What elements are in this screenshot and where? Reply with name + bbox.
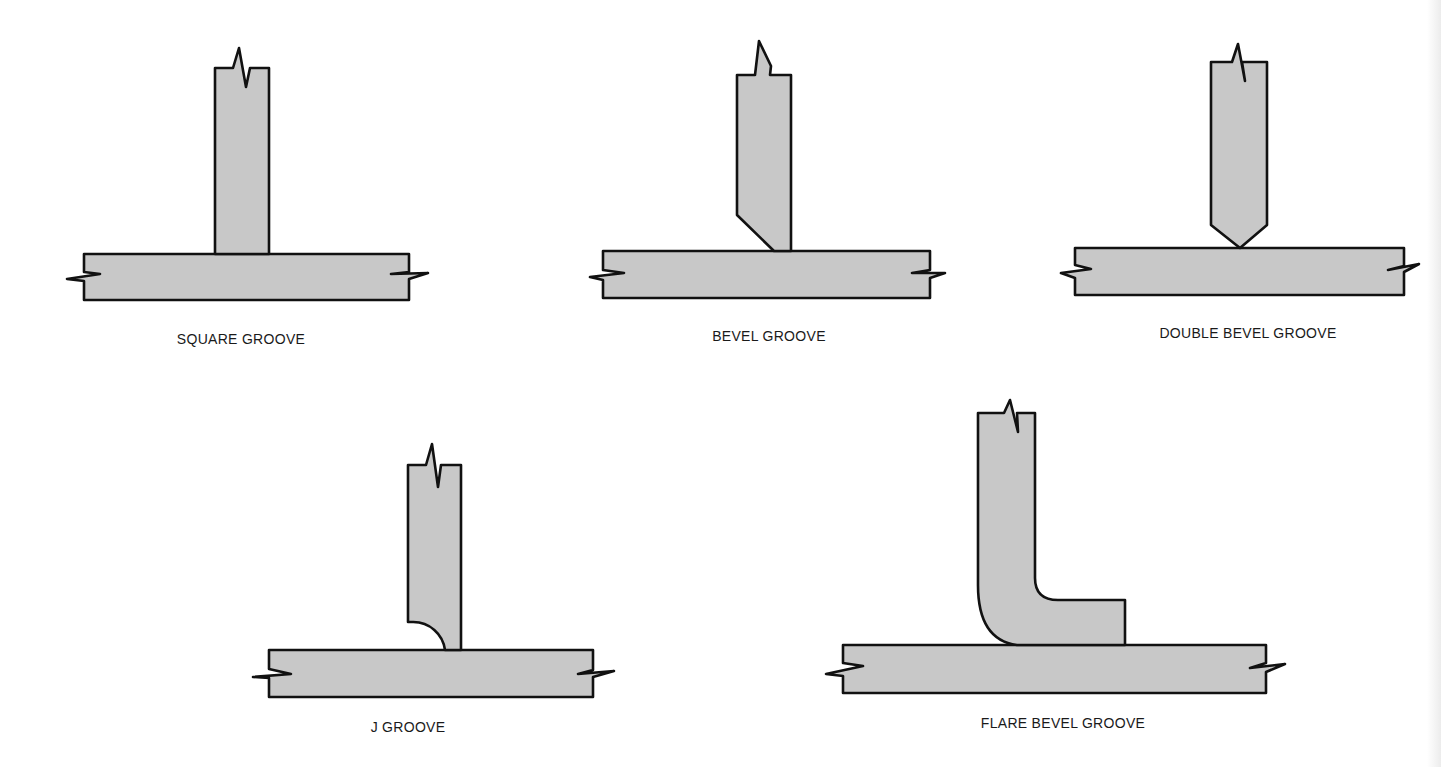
- double-bevel-groove-label: DOUBLE BEVEL GROOVE: [1159, 325, 1336, 341]
- j-groove-label: J GROOVE: [371, 719, 446, 735]
- j-groove-vertical-member: [408, 444, 461, 650]
- double-bevel-groove-vertical-member: [1211, 44, 1267, 248]
- flare-bevel-groove-l-member: [978, 400, 1125, 645]
- square-groove-label: SQUARE GROOVE: [177, 331, 305, 347]
- square-groove-vertical-member: [215, 48, 269, 254]
- flare-bevel-groove-base-plate: [826, 645, 1285, 693]
- square-groove-diagram: [67, 48, 428, 300]
- page-edge-shadow: [1427, 0, 1441, 767]
- bevel-groove-vertical-member: [737, 41, 791, 251]
- flare-bevel-groove-diagram: [826, 400, 1285, 693]
- bevel-groove-base-plate: [590, 251, 945, 298]
- j-groove-diagram: [253, 444, 614, 697]
- bevel-groove-diagram: [590, 41, 945, 298]
- flare-bevel-groove-label: FLARE BEVEL GROOVE: [981, 715, 1145, 731]
- square-groove-base-plate: [67, 254, 428, 300]
- double-bevel-groove-diagram: [1061, 44, 1419, 295]
- groove-weld-figure: .part { fill:#c8c8c8; stroke:#111111; st…: [0, 0, 1441, 767]
- double-bevel-groove-base-plate: [1061, 248, 1419, 295]
- bevel-groove-label: BEVEL GROOVE: [712, 328, 826, 344]
- j-groove-base-plate: [253, 650, 614, 697]
